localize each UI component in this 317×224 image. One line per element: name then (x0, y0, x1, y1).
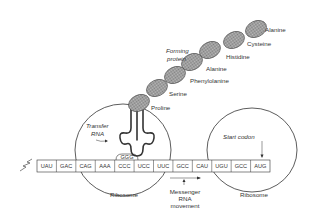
codon-box: UCC (138, 163, 150, 169)
protein-chain (126, 17, 270, 115)
trna-label-line1: Transfer (86, 122, 110, 129)
codon-box: CAU (196, 163, 208, 169)
mrna-movement-label-line1: Messenger (170, 188, 201, 195)
amino-acid-label: Alanine (206, 65, 227, 72)
protein-label-line1: Forming (166, 47, 189, 54)
anticodon-label: GGG (121, 154, 134, 160)
amino-acid-label: Histidine (226, 53, 250, 60)
amino-acid-label: Alanine (265, 26, 286, 33)
amino-acid-label: Cysteine (247, 40, 272, 47)
codon-box: CCC (118, 163, 130, 169)
protein-synthesis-diagram: UAUGACCAGAAACCCUCCUUCGCCCAUUGUGCCAUG GGG… (0, 0, 317, 224)
trna-label-line2: RNA (91, 130, 104, 137)
start-codon-label: Start codon (223, 133, 255, 140)
mrna-movement-label-line2: RNA (178, 195, 192, 202)
codon-box: AUG (254, 163, 266, 169)
amino-acid-label: Serine (169, 90, 187, 97)
ribosome-right-label: Ribosome (240, 191, 268, 198)
mrna-movement-label-line3: movement (171, 202, 200, 209)
ribosome-right (207, 108, 297, 192)
codon-box: GCC (235, 163, 247, 169)
codon-box: GCC (176, 163, 188, 169)
amino-acid-label: Phenylolanine (190, 77, 229, 84)
mrna-end-squiggle-icon (20, 159, 32, 171)
protein-label-line2: protein (166, 55, 186, 62)
ribosome-left-label: Ribosome (110, 191, 138, 198)
amino-acid-label: Proline (151, 104, 171, 111)
codon-box: UGU (215, 163, 227, 169)
codon-box: UUC (157, 163, 169, 169)
codon-box: AAA (99, 163, 110, 169)
codon-box: UAU (41, 163, 53, 169)
codon-box: GAC (60, 163, 72, 169)
codon-box: CAG (79, 163, 91, 169)
ribosome-left (75, 104, 171, 196)
